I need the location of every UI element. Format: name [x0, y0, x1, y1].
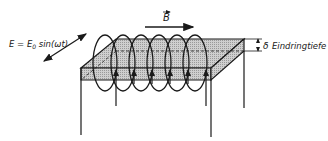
b-field-label: B — [163, 12, 170, 23]
penetration-depth-marker — [244, 39, 262, 51]
e-field-vector: E = E0 sin(ωt) — [9, 34, 86, 61]
penetration-depth-label: Eindringtiefe — [272, 41, 326, 51]
b-field-vector: B — [145, 12, 193, 27]
e-field-label: E = E0 sin(ωt) — [9, 39, 68, 50]
delta-symbol: δ — [263, 41, 269, 51]
conductor-slab — [81, 39, 244, 80]
eddy-current-diagram: B E = E0 sin(ωt) δ Eindringtiefe — [0, 0, 328, 141]
